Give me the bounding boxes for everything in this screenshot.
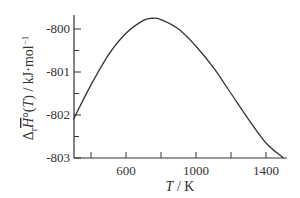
enthalpy-chart: -800-801-802-80360010001400T / KΔrH°(T) …	[0, 0, 300, 198]
data-curve	[74, 18, 284, 158]
x-tick-label: 1400	[253, 163, 279, 178]
y-axis-label: ΔrH°(T) / kJ·mol−1	[20, 36, 39, 141]
y-tick-label: -802	[46, 107, 70, 122]
x-tick-label: 600	[116, 163, 136, 178]
y-tick-label: -803	[46, 150, 70, 165]
x-tick-label: 1000	[183, 163, 209, 178]
y-tick-label: -800	[46, 21, 70, 36]
x-axis-label: T / K	[166, 179, 195, 194]
y-tick-label: -801	[46, 64, 70, 79]
